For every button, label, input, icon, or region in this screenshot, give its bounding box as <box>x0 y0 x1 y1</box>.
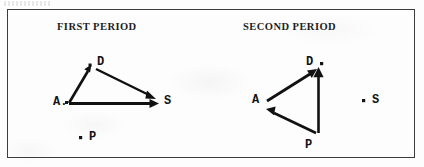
figure-canvas: FIRST PERIOD SECOND PERIOD <box>0 0 424 167</box>
point-label-a-second: A <box>252 94 259 106</box>
point-label-s-first: S <box>164 95 171 107</box>
point-label-p-second: P <box>305 139 312 151</box>
diagram-vectors <box>0 0 424 167</box>
arrow-p-to-a-second <box>266 107 316 134</box>
arrow-a-to-d-second <box>267 69 317 101</box>
point-label-a-first: A. <box>53 96 67 108</box>
point-label-p-first: P <box>89 131 96 143</box>
point-marker-s-second <box>362 99 365 102</box>
point-label-d-second: D <box>306 56 313 68</box>
arrow-p-to-d-second <box>313 67 323 133</box>
point-marker-p-first <box>79 136 82 139</box>
arrow-a-to-s-first <box>69 99 159 108</box>
arrow-a-to-d-first <box>69 65 92 104</box>
point-label-d-first: D <box>97 56 104 68</box>
arrow-d-to-s-first <box>96 69 156 99</box>
point-label-s-second: S <box>372 94 379 106</box>
point-marker-d-second <box>320 62 323 65</box>
